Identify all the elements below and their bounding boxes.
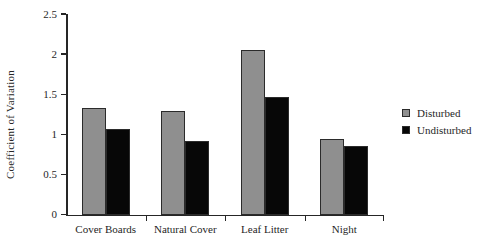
bar-disturbed-cover-boards [82,108,106,215]
y-axis-tick: 1.5 [61,94,66,95]
y-axis-tick-label: 1 [52,128,58,140]
legend-item-label: Undisturbed [417,124,471,136]
y-axis-tick-label: 0 [52,208,58,220]
y-axis-tick: 2 [61,53,66,54]
x-axis-label: Natural Cover [154,223,217,235]
legend-swatch-icon [402,109,410,117]
x-axis-tick [225,215,226,221]
y-axis-tick-label: 0.5 [43,168,57,180]
legend-item-undisturbed[interactable]: Undisturbed [402,121,471,138]
bar-disturbed-natural-cover [161,111,185,214]
legend-item-label: Disturbed [417,107,460,119]
y-axis-tick: 1 [61,134,66,135]
bar-chart: Coefficient of Variation 00.511.522.5 Co… [0,0,487,249]
y-axis-tick-label: 1.5 [43,88,57,100]
x-axis-tick [305,215,306,221]
bar-disturbed-night [320,139,344,214]
y-axis-title: Coefficient of Variation [0,0,20,249]
x-axis-label: Night [332,223,357,235]
y-axis-tick: 0.5 [61,174,66,175]
plot-area: 00.511.522.5 Cover BoardsNatural CoverLe… [66,14,384,215]
legend: Disturbed Undisturbed [402,104,471,138]
y-axis-tick-label: 2 [52,48,58,60]
x-axis-tick [383,215,384,221]
bar-undisturbed-cover-boards [106,129,130,215]
legend-swatch-icon [402,126,410,134]
legend-item-disturbed[interactable]: Disturbed [402,104,471,121]
y-axis-tick-label: 2.5 [43,8,57,20]
x-axis-label: Cover Boards [75,223,136,235]
y-axis-tick: 0 [61,214,66,215]
x-axis-tick [146,215,147,221]
x-axis-label: Leaf Litter [241,223,288,235]
bar-undisturbed-leaf-litter [265,97,289,214]
bar-undisturbed-night [344,146,368,215]
bar-undisturbed-natural-cover [185,141,209,215]
y-axis-tick: 2.5 [61,13,66,14]
y-axis-line [66,14,68,215]
bar-disturbed-leaf-litter [241,50,265,214]
